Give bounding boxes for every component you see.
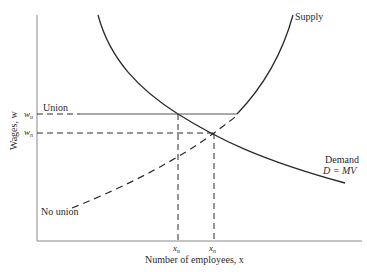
x-u-tick-label: xu [172, 243, 180, 254]
y-axis-title: Wages, w [8, 111, 19, 150]
x-axis-title: Number of employees, x [145, 254, 244, 265]
demand-sublabel: D = MV [322, 165, 358, 176]
labor-market-diagram: Supply Demand D = MV Union No union wu w… [0, 0, 367, 272]
w-n-tick-label: wn [24, 127, 33, 138]
no-union-supply-curve [72, 114, 237, 208]
supply-curve [237, 15, 293, 114]
w-u-tick-label: wu [24, 109, 33, 120]
supply-label: Supply [295, 11, 323, 22]
no-union-label: No union [41, 206, 79, 217]
demand-curve [98, 15, 345, 183]
demand-label: Demand [325, 154, 359, 165]
union-label: Union [43, 102, 68, 113]
x-n-tick-label: xn [208, 243, 216, 254]
